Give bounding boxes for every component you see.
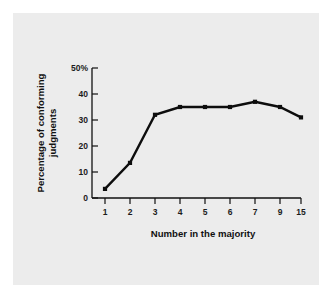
x-tick-label-9: 9 [278,207,283,217]
data-point-9 [278,105,282,109]
y-tick-label-30: 30 [79,115,89,125]
data-point-1 [103,187,107,191]
data-point-5 [203,105,207,109]
y-axis-title-line-2: judgments [47,109,58,159]
x-tick-label-4: 4 [178,207,183,217]
data-point-7 [253,100,257,104]
data-point-4 [178,105,182,109]
data-series-line [105,102,301,189]
line-chart: 50% 40 30 20 10 0 1 [13,13,319,285]
y-tick-label-40: 40 [79,89,89,99]
x-tick-label-6: 6 [228,207,233,217]
x-tick-label-3: 3 [153,207,158,217]
figure-root: 50% 40 30 20 10 0 1 [0,0,333,299]
y-axis-tick-labels: 50% 40 30 20 10 0 [71,63,88,203]
x-tick-label-1: 1 [103,207,108,217]
x-axis-title: Number in the majority [151,228,256,239]
chart-panel: 50% 40 30 20 10 0 1 [13,13,319,285]
x-axis-tick-labels: 1 2 3 4 5 6 7 9 15 [103,207,306,217]
data-point-3 [153,113,157,117]
y-tick-label-50: 50% [71,63,88,73]
y-axis-title-line-1: Percentage of conforming [35,73,46,192]
x-tick-label-2: 2 [128,207,133,217]
x-axis-ticks [105,198,301,204]
x-tick-label-15: 15 [296,207,306,217]
y-tick-label-0: 0 [83,193,88,203]
data-point-2 [128,161,132,165]
data-point-6 [228,105,232,109]
x-tick-label-7: 7 [253,207,258,217]
data-point-15 [299,115,303,119]
y-axis-title: Percentage of conforming judgments [35,73,58,192]
data-series-markers [103,100,303,191]
y-tick-label-10: 10 [79,167,89,177]
x-tick-label-5: 5 [203,207,208,217]
y-axis-ticks [92,68,98,198]
y-tick-label-20: 20 [79,141,89,151]
